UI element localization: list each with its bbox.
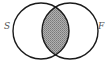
set-s-label: S <box>4 21 10 31</box>
set-f-label: F <box>97 21 105 31</box>
venn-diagram: S F <box>0 0 105 62</box>
